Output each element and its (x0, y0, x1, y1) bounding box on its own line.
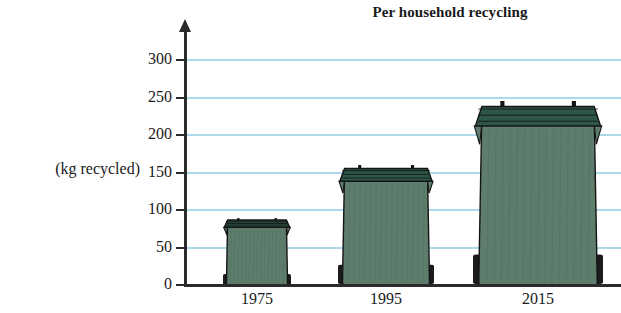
x-axis-label-2015: 2015 (493, 290, 583, 308)
y-axis-tick (176, 134, 187, 136)
y-axis-tick-label-text: 0 (130, 276, 172, 292)
y-axis-tick-label-text: 50 (130, 239, 172, 255)
y-axis-tick-label: 300 (126, 51, 172, 67)
gridline (186, 97, 621, 99)
x-axis-label-1975: 1975 (212, 290, 302, 308)
plot-area (186, 24, 621, 286)
x-axis-label-1995: 1995 (341, 290, 431, 308)
y-axis-tick-label: 200 (126, 126, 172, 142)
y-axis-tick-label: 0 (126, 276, 172, 292)
y-axis-tick (176, 284, 187, 286)
y-axis-tick-label: 100 (126, 201, 172, 217)
y-axis-unit-label: (kg recycled) (4, 160, 140, 178)
chart-title: Per household recycling (300, 4, 600, 21)
y-axis-tick (176, 59, 187, 61)
y-axis-arrow-icon (179, 19, 191, 32)
bar-bin-1975 (223, 218, 291, 286)
y-axis-tick (176, 247, 187, 249)
gridline (186, 59, 621, 61)
y-axis-tick-label: 50 (126, 239, 172, 255)
y-axis-tick-label-text: 300 (130, 51, 172, 67)
recycling-bar-chart: Per household recycling (kg recycled) (0, 0, 621, 313)
bar-bin-2015 (473, 101, 603, 285)
x-axis-line (184, 284, 621, 287)
y-axis-tick-label-text: 200 (130, 126, 172, 142)
y-axis-tick-label: 250 (126, 89, 172, 105)
y-axis-tick-label: 150 (126, 164, 172, 180)
y-axis-tick-label-text: 250 (130, 89, 172, 105)
y-axis-tick (176, 97, 187, 99)
y-axis-tick (176, 172, 187, 174)
y-axis-tick (176, 209, 187, 211)
y-axis-tick-label-text: 100 (130, 201, 172, 217)
y-axis-tick-label-text: 150 (130, 164, 172, 180)
bar-bin-1995 (338, 165, 434, 285)
